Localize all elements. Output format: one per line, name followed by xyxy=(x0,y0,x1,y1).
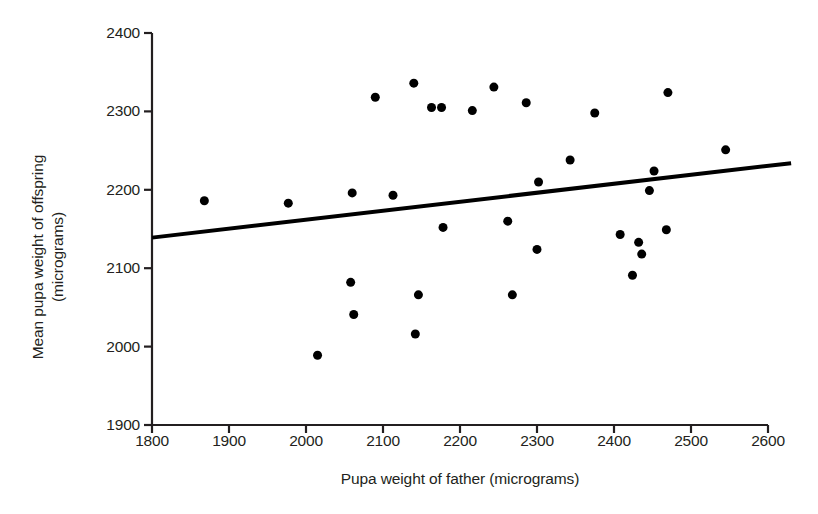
x-axis-tick-label: 2500 xyxy=(674,432,708,450)
y-tick-label-group: 190020002100220023002400 xyxy=(88,0,140,514)
x-axis-tick-label: 2600 xyxy=(751,432,785,450)
regression-line xyxy=(152,163,791,237)
data-point xyxy=(371,93,380,102)
data-point xyxy=(439,223,448,232)
x-axis-tick-label: 2300 xyxy=(520,432,554,450)
data-point xyxy=(628,271,637,280)
x-axis-tick-label: 2200 xyxy=(443,432,477,450)
x-axis-tick-label: 2400 xyxy=(597,432,631,450)
data-point xyxy=(662,225,671,234)
data-point xyxy=(503,217,512,226)
y-axis-tick-label: 2300 xyxy=(106,102,140,120)
data-point xyxy=(409,79,418,88)
y-axis-tick-label: 2400 xyxy=(106,24,140,42)
y-axis-tick-label: 2200 xyxy=(106,181,140,199)
x-axis-label: Pupa weight of father (micrograms) xyxy=(152,470,768,488)
axis-lines xyxy=(152,33,768,425)
data-point xyxy=(427,103,436,112)
data-point xyxy=(650,166,659,175)
data-point xyxy=(590,108,599,117)
data-point xyxy=(489,83,498,92)
data-point xyxy=(616,230,625,239)
data-point xyxy=(721,145,730,154)
y-axis-tick-label: 2000 xyxy=(106,338,140,356)
data-point xyxy=(346,278,355,287)
x-axis-tick-label: 1800 xyxy=(135,432,169,450)
data-point xyxy=(534,177,543,186)
data-point xyxy=(637,250,646,259)
y-axis-tick-label: 2100 xyxy=(106,259,140,277)
data-point xyxy=(313,351,322,360)
data-point xyxy=(508,290,517,299)
data-point xyxy=(284,199,293,208)
data-point xyxy=(389,191,398,200)
scatter-plot-figure: Mean pupa weight of offspring (microgram… xyxy=(0,0,818,514)
data-point xyxy=(533,245,542,254)
data-point xyxy=(411,330,420,339)
data-point xyxy=(566,156,575,165)
data-point xyxy=(522,98,531,107)
data-point xyxy=(414,290,423,299)
data-point xyxy=(348,188,357,197)
data-point xyxy=(645,186,654,195)
data-point xyxy=(468,106,477,115)
x-axis-tick-label: 1900 xyxy=(212,432,246,450)
x-axis-tick-label: 2100 xyxy=(366,432,400,450)
data-point xyxy=(634,238,643,247)
data-point xyxy=(663,88,672,97)
x-axis-tick-label: 2000 xyxy=(289,432,323,450)
data-point xyxy=(200,196,209,205)
data-point xyxy=(437,103,446,112)
data-point xyxy=(349,310,358,319)
